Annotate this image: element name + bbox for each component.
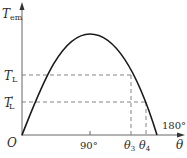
theta3-label: θ3 [124, 139, 135, 153]
torque-curve [22, 34, 157, 135]
torque-angle-chart: Tem TL T′L O 90° θ3 θ4 180° θ [0, 0, 187, 158]
tlp-label: T′L [4, 95, 15, 111]
tick-90-label: 90° [80, 140, 98, 151]
origin-label: O [7, 136, 17, 150]
theta4-label: θ4 [139, 139, 151, 153]
y-axis-arrow-icon [20, 2, 25, 10]
tl-label: TL [4, 69, 18, 84]
tick-180-label: 180° [162, 120, 186, 131]
x-axis-arrow-icon [177, 133, 185, 138]
y-axis-label: Tem [2, 7, 23, 22]
x-axis-label: θ [176, 138, 184, 152]
